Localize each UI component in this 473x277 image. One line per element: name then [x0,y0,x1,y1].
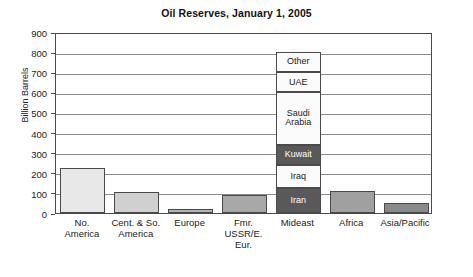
stack-segment-iraq[interactable]: Iraq [276,165,321,188]
stack-segment-kuwait[interactable]: Kuwait [276,145,321,165]
stack-segment-label: Other [287,57,310,66]
gridline [56,174,431,175]
gridline [56,94,431,95]
y-axis-tick-label: 300 [0,148,47,159]
chart-container: Oil Reserves, January 1, 2005 Billion Ba… [0,0,473,277]
gridline [56,114,431,115]
y-axis-tick-label: 200 [0,168,47,179]
y-axis-tick-label: 900 [0,28,47,39]
bar-europe[interactable] [168,209,213,213]
chart-title: Oil Reserves, January 1, 2005 [0,7,473,19]
bar-fmr-ussr-e-eur[interactable] [222,195,267,213]
bar-no-america[interactable] [60,168,105,213]
stack-segment-saudi-arabia[interactable]: SaudiArabia [276,92,321,144]
y-axis-tick-label: 700 [0,68,47,79]
x-axis-label-asia-pacific: Asia/Pacific [378,218,432,229]
stack-segment-iran[interactable]: Iran [276,188,321,213]
bar-mideast[interactable]: IranIraqKuwaitSaudiArabiaUAEOther [276,52,321,213]
gridline [56,154,431,155]
stack-segment-label: Iraq [291,172,307,181]
gridline [56,134,431,135]
stack-segment-label: SaudiArabia [285,109,311,128]
stack-segment-label: UAE [289,78,308,87]
plot-area: IranIraqKuwaitSaudiArabiaUAEOther [55,33,432,214]
bar-cent-so-america[interactable] [114,192,159,213]
x-axis-label-mideast: Mideast [270,218,324,229]
bar-africa[interactable] [330,191,375,213]
x-axis-label-africa: Africa [324,218,378,229]
y-axis-tick-label: 600 [0,88,47,99]
y-axis-tick-label: 100 [0,188,47,199]
y-axis-tick-label: 800 [0,48,47,59]
x-axis-label-no-america: No.America [55,218,109,240]
bar-asia-pacific[interactable] [384,203,429,213]
stack-segment-uae[interactable]: UAE [276,72,321,92]
gridline [56,74,431,75]
x-axis-label-europe: Europe [163,218,217,229]
x-axis-label-fmr-ussr-e-eur: Fmr.USSR/E.Eur. [217,218,271,251]
x-axis-label-cent-so-america: Cent. & So.America [109,218,163,240]
gridline [56,54,431,55]
stack-segment-label: Kuwait [285,150,312,159]
stack-segment-label: Iran [291,196,307,205]
stack-segment-other[interactable]: Other [276,52,321,72]
y-axis-tick-label: 400 [0,128,47,139]
y-axis-tick-label: 500 [0,108,47,119]
y-axis-tick-label: 0 [0,209,47,220]
